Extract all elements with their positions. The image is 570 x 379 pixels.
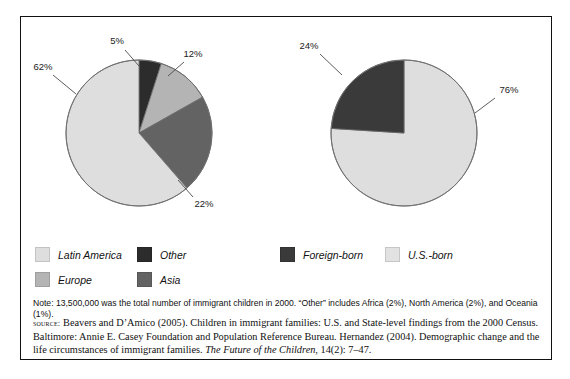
leader-line-foreign-born	[320, 54, 342, 75]
legend-item-foreign-born: Foreign-born	[280, 247, 363, 262]
legend-item-other: Other	[137, 247, 186, 262]
pie-right-label-foreign-born: 24%	[299, 40, 319, 51]
legend-swatch-asia	[137, 272, 152, 287]
pie-left-label-europe: 12%	[183, 48, 203, 59]
pie-chart-region-of-origin: 5% 12% 22% 62%	[21, 17, 287, 243]
legend-label-asia: Asia	[160, 274, 180, 286]
legend-swatch-other	[137, 247, 152, 262]
legend-swatch-foreign-born	[280, 247, 295, 262]
leader-line-latin-america	[53, 75, 76, 94]
leader-line-us-born	[475, 98, 495, 113]
pie-right-slices	[331, 60, 477, 206]
pie-right-slice-foreign-born	[331, 60, 404, 133]
legend-swatch-us-born	[385, 247, 400, 262]
legend-item-us-born: U.S.-born	[385, 247, 453, 262]
legend-label-us-born: U.S.-born	[408, 249, 453, 261]
legend-label-other: Other	[160, 249, 186, 261]
legend-label-foreign-born: Foreign-born	[303, 249, 363, 261]
figure-source: source: Beavers and D’Amico (2005). Chil…	[33, 316, 545, 357]
pie-left-label-asia: 22%	[194, 198, 214, 209]
legend-item-europe: Europe	[35, 272, 92, 287]
legend-label-latin-america: Latin America	[58, 249, 122, 261]
legend-label-europe: Europe	[58, 274, 92, 286]
pie-left-label-other: 5%	[110, 35, 124, 46]
legend-item-asia: Asia	[137, 272, 180, 287]
source-text-b: , 14(2): 7–47.	[315, 344, 371, 355]
legend: Latin America Europe Other Asia Foreign-…	[21, 241, 553, 297]
source-journal-title: The Future of the Children	[205, 344, 315, 355]
source-prefix: source:	[33, 318, 60, 328]
legend-swatch-europe	[35, 272, 50, 287]
pie-right-label-us-born: 76%	[499, 84, 519, 95]
charts-area: 5% 12% 22% 62% 24% 76%	[21, 17, 553, 243]
pie-chart-nativity: 24% 76%	[287, 17, 553, 243]
legend-swatch-latin-america	[35, 247, 50, 262]
figure-box: 5% 12% 22% 62% 24% 76% Latin America Eur…	[20, 16, 552, 360]
legend-item-latin-america: Latin America	[35, 247, 122, 262]
pie-left-label-latin-america: 62%	[33, 61, 53, 72]
pie-left-slices	[66, 60, 212, 206]
